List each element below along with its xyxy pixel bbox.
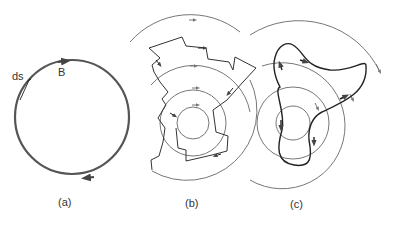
b-field-label: B [58, 66, 65, 78]
panel-b-path [149, 37, 256, 170]
diagram-canvas [0, 0, 395, 228]
caption-c: (c) [290, 198, 303, 210]
b-direction-arrow-icon [86, 177, 94, 178]
panel-c-field-lines [250, 21, 380, 189]
b-direction-arrow-icon [58, 61, 66, 62]
caption-a: (a) [58, 196, 71, 208]
panel-b-field-lines [130, 15, 257, 181]
caption-b: (b) [185, 197, 198, 209]
panel-a-loop [15, 60, 129, 178]
ds-label: ds [12, 70, 24, 82]
